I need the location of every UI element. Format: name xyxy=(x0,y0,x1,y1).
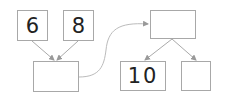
number-box-8: 8 xyxy=(63,10,94,41)
blank-top-box[interactable] xyxy=(150,10,196,39)
arrow-top-to-10 xyxy=(145,39,172,60)
blank-part-box[interactable] xyxy=(181,61,211,91)
number-label: 6 xyxy=(26,14,39,38)
number-label: 10 xyxy=(128,64,159,88)
arrow-6-to-sum xyxy=(32,41,54,60)
number-box-6: 6 xyxy=(17,10,48,41)
blank-sum-box[interactable] xyxy=(33,61,79,92)
arrow-8-to-sum xyxy=(57,41,78,60)
number-box-10: 10 xyxy=(120,61,166,91)
arrow-top-to-blank xyxy=(172,39,196,60)
number-label: 8 xyxy=(72,14,85,38)
